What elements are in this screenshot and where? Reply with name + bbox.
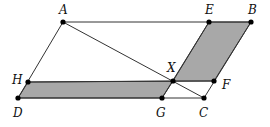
label-F: F [221,78,231,92]
label-C: C [199,106,208,120]
point-G [159,95,164,100]
point-B [248,19,253,24]
point-F [211,78,216,83]
label-A: A [58,3,68,17]
segment-HF [28,81,214,82]
point-X [170,78,175,83]
point-E [206,19,211,24]
label-G: G [156,106,166,120]
point-C [201,95,206,100]
shaded-parallelogram-EBFX [173,22,251,81]
geometry-diagram: A E B H X F D G C [0,0,270,127]
point-A [60,19,65,24]
label-B: B [247,3,257,17]
point-D [15,95,20,100]
label-H: H [11,73,23,87]
label-X: X [166,61,176,75]
label-D: D [12,106,23,120]
label-E: E [204,3,214,17]
point-H [25,79,30,84]
shaded-parallelogram-HXGD [18,81,173,98]
